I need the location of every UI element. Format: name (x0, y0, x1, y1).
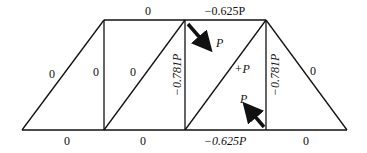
label-vertical-1: 0 (93, 65, 99, 79)
label-vertical-3: −0.781P (268, 53, 282, 96)
label-bottom-2: 0 (140, 134, 146, 148)
label-vertical-2: −0.781P (170, 53, 184, 96)
label-diagonal-2: 0 (130, 65, 136, 79)
load-arrow-bottom (247, 107, 264, 127)
label-diagonal-3: +P (234, 62, 250, 76)
load-arrow-top (188, 24, 208, 47)
label-right-diagonal: 0 (310, 64, 316, 78)
load-label-top: P (215, 36, 224, 50)
label-bottom-3: −0.625P (204, 134, 247, 148)
member-left-diagonal (22, 20, 104, 130)
load-label-bottom: P (239, 92, 248, 106)
label-left-diagonal: 0 (49, 67, 55, 81)
label-bottom-1: 0 (64, 134, 70, 148)
truss-diagram: 0 −0.625P 0 0 0 −0.781P +P −0.781P 0 0 0… (0, 0, 367, 153)
label-top-left: 0 (145, 4, 151, 18)
label-top-right: −0.625P (205, 4, 246, 18)
label-bottom-4: 0 (303, 134, 309, 148)
